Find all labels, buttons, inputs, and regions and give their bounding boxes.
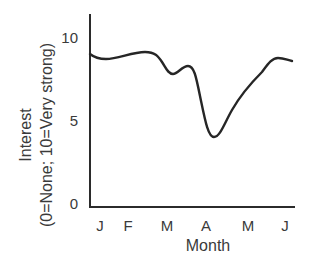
y-axis-title-line2: (0=None; 10=Very strong) bbox=[38, 43, 55, 227]
y-tick-0: 0 bbox=[70, 195, 78, 212]
interest-line bbox=[90, 52, 292, 137]
x-tick-mar: M bbox=[161, 217, 174, 234]
y-tick-10: 10 bbox=[61, 29, 78, 46]
line-chart: 10 5 0 J F M A M J Month Interest (0=Non… bbox=[0, 0, 312, 264]
x-axis-title: Month bbox=[186, 237, 230, 254]
x-tick-jun: J bbox=[281, 217, 289, 234]
x-tick-jan: J bbox=[96, 217, 104, 234]
y-axis-title-line1: Interest bbox=[17, 108, 34, 162]
x-tick-feb: F bbox=[123, 217, 132, 234]
x-tick-apr: A bbox=[201, 217, 211, 234]
y-tick-5: 5 bbox=[70, 112, 78, 129]
x-tick-may: M bbox=[242, 217, 255, 234]
